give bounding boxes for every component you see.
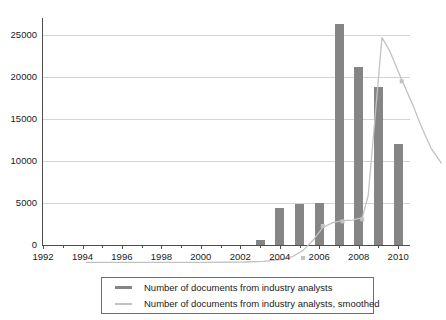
- x-axis-tick-label: 2006: [299, 252, 339, 262]
- legend-label-bars: Number of documents from industry analys…: [144, 282, 333, 293]
- smoothed-line-series: [86, 36, 446, 263]
- y-axis-tick-label: 5000: [0, 198, 37, 208]
- x-axis-minor-tick: [221, 245, 222, 248]
- x-axis-tick-label: 2008: [339, 252, 379, 262]
- legend-swatch-smoothed: [115, 303, 132, 305]
- x-axis-minor-tick: [339, 245, 340, 248]
- chart-legend: Number of documents from industry analys…: [101, 277, 374, 314]
- x-axis-minor-tick: [63, 245, 64, 248]
- x-axis-tick: [122, 245, 123, 249]
- x-axis-minor-tick: [181, 245, 182, 248]
- bar: [335, 24, 344, 245]
- x-axis-minor-tick: [378, 245, 379, 248]
- x-axis-tick-label: 2002: [220, 252, 260, 262]
- y-axis-tick-label: 20000: [0, 72, 37, 82]
- legend-label-smoothed: Number of documents from industry analys…: [144, 298, 380, 309]
- x-axis-tick: [240, 245, 241, 249]
- x-axis-minor-tick: [260, 245, 261, 248]
- bar: [374, 87, 383, 245]
- x-axis-tick-label: 1996: [102, 252, 142, 262]
- x-axis-line: [42, 245, 410, 246]
- x-axis-minor-tick: [142, 245, 143, 248]
- x-axis-minor-tick: [102, 245, 103, 248]
- x-axis-minor-tick: [300, 245, 301, 248]
- x-axis-tick-label: 2010: [378, 252, 418, 262]
- legend-swatch-bars: [115, 286, 132, 289]
- bar: [354, 67, 363, 245]
- gridline: [43, 35, 410, 36]
- bar: [394, 144, 403, 245]
- x-axis-tick-label: 1992: [23, 252, 63, 262]
- legend-item-bars: Number of documents from industry analys…: [102, 279, 373, 296]
- x-axis-tick: [398, 245, 399, 249]
- x-axis-tick-label: 2000: [181, 252, 221, 262]
- legend-item-smoothed: Number of documents from industry analys…: [102, 295, 373, 312]
- x-axis-tick: [319, 245, 320, 249]
- y-axis-tick-label: 10000: [0, 156, 37, 166]
- x-axis-tick: [201, 245, 202, 249]
- bar: [275, 208, 284, 245]
- x-axis-tick-label: 2004: [260, 252, 300, 262]
- y-axis-tick-label: 25000: [0, 30, 37, 40]
- x-axis-tick-label: 1998: [141, 252, 181, 262]
- x-axis-tick: [359, 245, 360, 249]
- line-marker: [400, 79, 404, 83]
- bar: [315, 203, 324, 245]
- x-axis-tick: [161, 245, 162, 249]
- bar: [295, 204, 304, 245]
- x-axis-tick: [43, 245, 44, 249]
- y-axis-tick-label: 0: [0, 240, 37, 250]
- x-axis-tick: [83, 245, 84, 249]
- plot-area: [43, 18, 410, 245]
- x-axis-tick-label: 1994: [63, 252, 103, 262]
- x-axis-tick: [280, 245, 281, 249]
- y-axis-tick-label: 15000: [0, 114, 37, 124]
